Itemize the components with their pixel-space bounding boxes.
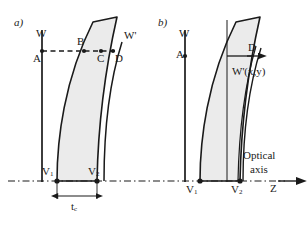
panel-b-label-a: A — [176, 49, 184, 60]
panel-a-label-wprime: W' — [124, 30, 136, 41]
optical-axis-symbol-z: Z — [270, 183, 277, 194]
panel-a-label-b: B — [77, 36, 84, 47]
panel-b-label-v2-subscript: 2 — [239, 188, 243, 196]
panel-a-label-v2-subscript: 2 — [96, 170, 100, 178]
panel-b-label-v1-subscript: 1 — [194, 188, 198, 196]
figure-canvas: a) W A B C D W' V1 V2 tc b) W A D W'(x,y… — [0, 0, 308, 226]
panel-b-label-w: W — [179, 28, 189, 39]
panel-b-label-v1-letter: V — [186, 183, 194, 195]
panel-a-label-v1: V1 — [42, 166, 53, 178]
panel-a-label-v1-subscript: 1 — [50, 170, 54, 178]
panel-b-tag: b) — [158, 17, 167, 28]
panel-b-label-v2-letter: V — [231, 183, 239, 195]
panel-a-tag: a) — [14, 17, 23, 28]
optical-axis-label-line2: axis — [250, 164, 268, 175]
panel-a-label-w: W — [36, 28, 46, 39]
panel-a-label-d: D — [115, 53, 123, 64]
panel-a-point-b-dot — [82, 49, 86, 53]
panel-a-label-v2-letter: V — [88, 165, 96, 177]
panel-b-label-v1: V1 — [186, 184, 197, 196]
panel-b-label-wprime-xy: W'(x,y) — [232, 66, 265, 77]
panel-a-label-thickness: tc — [71, 201, 77, 213]
panel-b-label-v2: V2 — [231, 184, 242, 196]
panel-b-label-d: D — [248, 42, 256, 53]
panel-a-lens-body — [57, 17, 117, 181]
panel-a-label-thickness-subscript: c — [74, 205, 77, 213]
panel-a-label-c: C — [97, 53, 104, 64]
panel-a-label-v2: V2 — [88, 166, 99, 178]
panel-a-label-v1-letter: V — [42, 165, 50, 177]
optical-axis-label-line1: Optical — [243, 150, 275, 161]
panel-a-label-a: A — [33, 53, 41, 64]
